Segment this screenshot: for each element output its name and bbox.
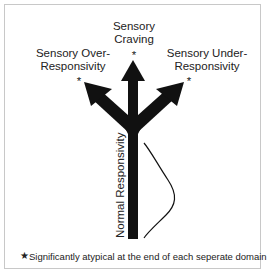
normal-distribution-curve — [144, 143, 175, 238]
label-over-line2: Responsivity — [40, 60, 105, 72]
footnote-star-icon: ★ — [20, 250, 29, 261]
label-under-line1: Sensory Under- — [167, 47, 248, 59]
label-craving-line1: Sensory — [113, 20, 155, 32]
asterisk-under: * — [187, 75, 192, 87]
label-normal-responsivity: Normal Responsivity — [114, 132, 126, 238]
footnote-text: Significantly atypical at the end of eac… — [29, 251, 267, 262]
asterisk-craving: * — [132, 49, 137, 61]
craving-shaft — [128, 78, 138, 118]
sensory-diagram: Sensory Craving * Sensory Over- Responsi… — [0, 0, 267, 275]
label-over-line1: Sensory Over- — [36, 47, 110, 59]
label-under-line2: Responsivity — [174, 60, 239, 72]
craving-arrowhead — [121, 60, 145, 81]
asterisk-over: * — [77, 75, 82, 87]
label-craving-line2: Craving — [114, 33, 154, 45]
